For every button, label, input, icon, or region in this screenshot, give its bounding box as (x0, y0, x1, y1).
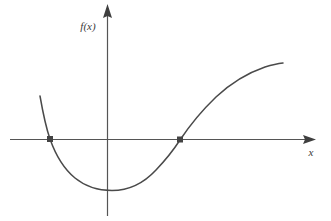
root-marker-left (47, 136, 53, 142)
root-marker-right (177, 137, 183, 143)
figure-background (0, 0, 331, 221)
y-axis-label: f(x) (80, 20, 96, 33)
graph-canvas: f(x) x (0, 0, 331, 221)
function-graph-figure: f(x) x (0, 0, 331, 221)
x-axis-label: x (308, 146, 314, 158)
